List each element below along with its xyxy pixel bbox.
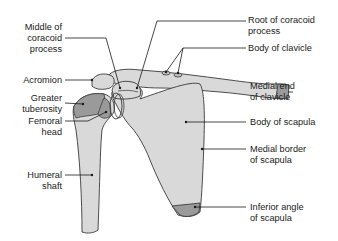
scapula-shape	[112, 83, 205, 216]
label-medial-end-clavicle: Medial end of clavicle	[250, 81, 295, 103]
acromion-shape	[92, 74, 114, 89]
label-greater-tuberosity: Greater tuberosity	[22, 93, 62, 115]
label-femoral-head: Femoral head	[28, 116, 62, 138]
leader-body-clavicle	[166, 48, 246, 72]
label-humeral-shaft: Humeral shaft	[27, 170, 62, 192]
shoulder-anatomy-diagram: Middle of coracoid process Acromion Grea…	[0, 0, 338, 241]
label-middle-coracoid: Middle of coracoid process	[25, 22, 62, 55]
label-medial-border-scapula: Medial border of scapula	[250, 144, 306, 166]
label-root-coracoid: Root of coracoid process	[248, 15, 315, 37]
label-body-scapula: Body of scapula	[250, 117, 315, 128]
label-acromion: Acromion	[23, 75, 62, 86]
label-inferior-angle-scapula: Inferior angle of scapula	[250, 202, 304, 224]
label-body-clavicle: Body of clavicle	[248, 43, 312, 54]
